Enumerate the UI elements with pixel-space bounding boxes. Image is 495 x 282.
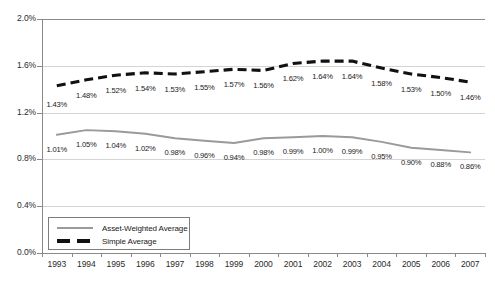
legend-label-asset-weighted-average: Asset-Weighted Average [102,224,188,233]
legend-label-simple-average: Simple Average [102,237,157,246]
chart-legend: Asset-Weighted Average Simple Average [48,217,190,250]
legend-item-asset-weighted-average: Asset-Weighted Average [55,222,188,234]
legend-item-simple-average: Simple Average [55,235,157,247]
chart-container: 0.0%0.4%0.8%1.2%1.6%2.0% 199319941995199… [0,0,495,282]
data-point-label: 1.46% [453,93,487,102]
legend-dashed-line-icon [55,236,95,246]
data-point-label: 0.86% [453,162,487,171]
legend-solid-line-icon [55,223,95,233]
data-point-label: 1.43% [40,100,74,109]
